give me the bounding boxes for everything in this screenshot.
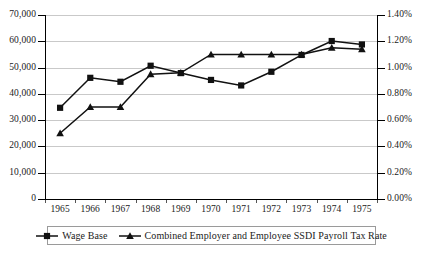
legend-label: Combined Employer and Employee SSDI Payr… bbox=[145, 231, 387, 241]
chart-legend: Wage BaseCombined Employer and Employee … bbox=[47, 226, 376, 245]
series-layer bbox=[0, 0, 423, 254]
data-point-marker bbox=[57, 105, 63, 111]
data-point-marker bbox=[268, 69, 274, 75]
data-point-marker bbox=[44, 232, 50, 238]
series-wage-base bbox=[57, 38, 365, 111]
series-line bbox=[60, 48, 362, 133]
series-ssdi-tax-rate bbox=[56, 44, 365, 136]
square-marker-icon bbox=[36, 231, 58, 241]
data-point-marker bbox=[208, 77, 214, 83]
legend-label: Wage Base bbox=[62, 231, 107, 241]
data-point-marker bbox=[238, 82, 244, 88]
data-point-marker bbox=[117, 79, 123, 85]
data-point-marker bbox=[87, 75, 93, 81]
triangle-marker-icon bbox=[119, 231, 141, 241]
data-point-marker bbox=[329, 38, 335, 44]
legend-item-wage-base[interactable]: Wage Base bbox=[36, 231, 107, 241]
chart-container: 010,00020,00030,00040,00050,00060,00070,… bbox=[0, 0, 423, 254]
legend-item-ssdi-tax-rate[interactable]: Combined Employer and Employee SSDI Payr… bbox=[119, 231, 387, 241]
data-point-marker bbox=[148, 63, 154, 69]
